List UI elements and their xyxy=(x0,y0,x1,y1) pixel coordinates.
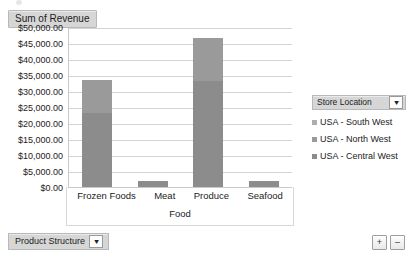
x-axis-title: Food xyxy=(68,208,292,219)
filter-icon[interactable]: ▼ xyxy=(89,235,103,248)
bar-stack[interactable] xyxy=(82,80,112,187)
x-tick-label: Meat xyxy=(154,190,175,202)
legend-label: USA - South West xyxy=(320,117,392,127)
y-axis: $50,000.00$45,000.00$40,000.00$35,000.00… xyxy=(0,28,66,188)
y-tick-label: $0.00 xyxy=(40,184,63,193)
legend-field-label: Store Location xyxy=(317,95,389,110)
legend-entry: USA - Central West xyxy=(312,151,406,161)
x-tick-label: Frozen Foods xyxy=(77,190,136,202)
filter-glyph: ▼ xyxy=(92,238,100,245)
legend-entries: USA - South WestUSA - North WestUSA - Ce… xyxy=(312,117,406,161)
y-tick-label: $45,000.00 xyxy=(18,40,63,49)
filter-icon[interactable]: ▼ xyxy=(389,96,403,109)
y-tick-label: $30,000.00 xyxy=(18,88,63,97)
legend-entry: USA - South West xyxy=(312,117,406,127)
y-tick-label: $5,000.00 xyxy=(23,168,63,177)
bars-layer xyxy=(69,28,292,187)
pivot-chart: $50,000.00$45,000.00$40,000.00$35,000.00… xyxy=(0,28,310,228)
legend-swatch xyxy=(312,120,317,125)
legend-label: USA - Central West xyxy=(320,151,398,161)
y-tick-label: $50,000.00 xyxy=(18,24,63,33)
bar-segment[interactable] xyxy=(82,113,112,187)
zoom-out-button[interactable]: – xyxy=(390,235,405,250)
bar-stack[interactable] xyxy=(249,181,279,187)
pivot-field-button-product-structure[interactable]: Product Structure ▼ xyxy=(8,233,109,250)
bar-stack[interactable] xyxy=(138,181,168,187)
filter-glyph: ▼ xyxy=(392,99,400,106)
bar-segment[interactable] xyxy=(193,81,223,187)
zoom-controls: + – xyxy=(372,235,405,250)
legend-label: USA - North West xyxy=(320,134,391,144)
scan-artifact xyxy=(16,0,22,5)
bar-segment[interactable] xyxy=(193,38,223,81)
y-tick-label: $10,000.00 xyxy=(18,152,63,161)
bar-segment[interactable] xyxy=(138,181,168,187)
y-tick-label: $35,000.00 xyxy=(18,72,63,81)
y-tick-label: $15,000.00 xyxy=(18,136,63,145)
legend-entry: USA - North West xyxy=(312,134,406,144)
y-tick-label: $20,000.00 xyxy=(18,120,63,129)
legend-swatch xyxy=(312,154,317,159)
y-tick-label: $40,000.00 xyxy=(18,56,63,65)
legend-panel: Store Location ▼ USA - South WestUSA - N… xyxy=(312,95,406,161)
y-tick-label: $25,000.00 xyxy=(18,104,63,113)
bar-stack[interactable] xyxy=(193,38,223,187)
plot-area xyxy=(68,28,292,188)
zoom-in-button[interactable]: + xyxy=(372,235,387,250)
x-tick-label: Seafood xyxy=(247,190,282,202)
field-button-label: Product Structure xyxy=(15,234,85,249)
pivot-field-button-store-location[interactable]: Store Location ▼ xyxy=(312,95,406,110)
bar-segment[interactable] xyxy=(82,80,112,114)
x-tick-label: Produce xyxy=(194,190,229,202)
bar-segment[interactable] xyxy=(249,181,279,187)
legend-swatch xyxy=(312,137,317,142)
x-axis: Frozen FoodsMeatProduceSeafood xyxy=(68,190,292,206)
